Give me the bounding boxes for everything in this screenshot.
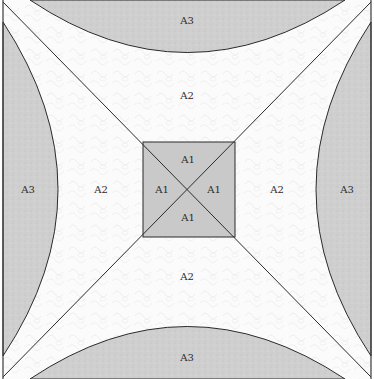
label-a1-left: A1 bbox=[154, 184, 169, 195]
label-a3-bottom: A3 bbox=[179, 352, 194, 363]
label-a2-right: A2 bbox=[269, 184, 284, 195]
label-a2-left: A2 bbox=[93, 184, 108, 195]
label-a3-right: A3 bbox=[339, 184, 354, 195]
label-a3-left: A3 bbox=[20, 184, 35, 195]
label-a1-top: A1 bbox=[180, 154, 195, 165]
label-a1-right: A1 bbox=[206, 184, 221, 195]
label-a2-bottom: A2 bbox=[179, 271, 194, 282]
label-a1-bottom: A1 bbox=[180, 212, 195, 223]
label-a3-top: A3 bbox=[179, 15, 194, 26]
area-diagram: A3 A2 A1 A3 A2 A1 A1 A2 A3 A1 A2 A3 bbox=[0, 0, 374, 379]
label-a2-top: A2 bbox=[179, 90, 194, 101]
